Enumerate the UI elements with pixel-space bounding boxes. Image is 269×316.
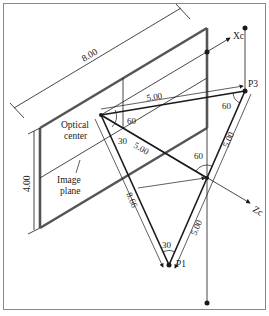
dist-z-p1-label: 5.00 — [189, 218, 205, 237]
angle-o-top-label: 60 — [127, 116, 137, 126]
optical-center-label-1: Optical — [61, 120, 89, 130]
width-dimension-label: 8.00 — [80, 46, 100, 63]
dimension-width — [10, 4, 190, 118]
angle-z-label: 60 — [194, 151, 204, 161]
top-point — [243, 26, 248, 31]
zc-axis-label: Zc — [251, 204, 265, 218]
p1-label: P1 — [176, 259, 186, 269]
angle-p3-label: 60 — [222, 101, 232, 111]
optical-center-point — [99, 113, 103, 117]
dist-o-p1-label: 8.66 — [124, 191, 140, 210]
point-z — [205, 176, 209, 180]
dist-o-p3-label: 5.00 — [146, 91, 164, 103]
xc-axis-label: Xc — [233, 31, 244, 41]
principal-point — [205, 50, 210, 55]
image-plane-pointer — [76, 160, 80, 173]
image-plane-label-1: Image — [57, 175, 81, 185]
point-p3 — [243, 89, 248, 94]
p3-label: P3 — [248, 79, 258, 89]
bottom-point — [205, 301, 210, 306]
height-dimension-label: 4.00 — [22, 175, 32, 192]
angle-p1-label: 30 — [162, 240, 172, 250]
figure-frame — [4, 4, 266, 310]
optical-center-label-2: center — [64, 131, 88, 141]
point-p1 — [167, 263, 172, 268]
rays — [95, 86, 251, 268]
angle-o-bottom-label: 30 — [118, 136, 128, 146]
image-plane-label-2: plane — [60, 186, 81, 196]
camera-geometry-diagram: 8.00 4.00 Xc Zc P3 — [0, 0, 269, 316]
